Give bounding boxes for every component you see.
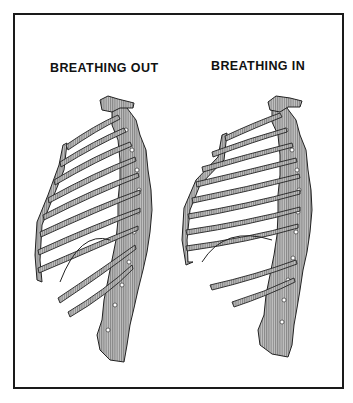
ribcage-breathing-out <box>35 96 152 362</box>
ribcage-breathing-in <box>182 96 312 357</box>
